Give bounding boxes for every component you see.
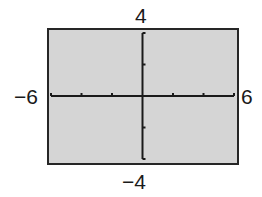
ymax-label: 4 (135, 5, 147, 26)
axes (51, 33, 234, 159)
xmin-label: −6 (14, 86, 38, 107)
ymin-label: −4 (122, 171, 146, 192)
xmax-label: 6 (241, 86, 253, 107)
plot-area (0, 0, 262, 197)
